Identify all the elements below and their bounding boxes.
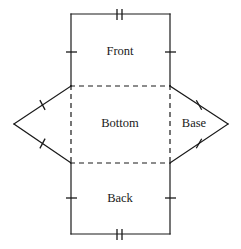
net-diagram-canvas: Front Bottom Back Base xyxy=(0,0,241,249)
label-back: Back xyxy=(107,191,133,205)
label-bottom: Bottom xyxy=(101,116,139,130)
label-front: Front xyxy=(106,44,134,58)
label-base: Base xyxy=(182,116,207,130)
net-diagram: Front Bottom Back Base xyxy=(0,0,241,249)
